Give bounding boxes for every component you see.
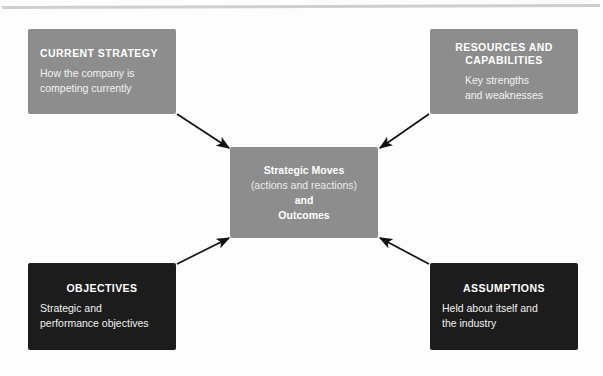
node-current-strategy-title: CURRENT STRATEGY — [40, 47, 158, 60]
strategy-diagram: CURRENT STRATEGY How the company is comp… — [0, 0, 603, 376]
page-top-rule — [2, 4, 600, 9]
center-line-actions-and-reactions: (actions and reactions) — [251, 178, 357, 193]
arrow-assumptions-to-center — [380, 238, 429, 264]
node-objectives-title: OBJECTIVES — [66, 282, 137, 295]
node-resources-title: RESOURCES AND CAPABILITIES — [455, 41, 553, 67]
node-current-strategy-body-line-1: How the company is — [40, 66, 135, 81]
center-line-outcomes: Outcomes — [278, 208, 329, 223]
node-current-strategy[interactable]: CURRENT STRATEGY How the company is comp… — [28, 29, 176, 114]
arrow-current-strategy-to-center — [177, 114, 229, 148]
node-resources-body-line-1: Key strengths — [465, 73, 543, 88]
center-line-and: and — [295, 193, 314, 208]
arrow-resources-to-center — [380, 114, 429, 148]
node-strategic-moves-and-outcomes[interactable]: Strategic Moves (actions and reactions) … — [230, 147, 378, 238]
node-assumptions[interactable]: ASSUMPTIONS Held about itself and the in… — [430, 263, 578, 350]
node-resources-title-line-1: RESOURCES AND — [455, 41, 553, 53]
node-current-strategy-body-line-2: competing currently — [40, 81, 135, 96]
node-assumptions-title: ASSUMPTIONS — [463, 282, 545, 295]
node-assumptions-body-line-2: the industry — [442, 316, 538, 331]
node-resources-body: Key strengths and weaknesses — [465, 73, 543, 103]
node-resources-and-capabilities[interactable]: RESOURCES AND CAPABILITIES Key strengths… — [430, 29, 578, 114]
center-line-strategic-moves: Strategic Moves — [264, 163, 345, 178]
node-objectives-body-line-2: performance objectives — [40, 316, 149, 331]
node-resources-title-line-2: CAPABILITIES — [465, 54, 543, 66]
node-current-strategy-body: How the company is competing currently — [40, 66, 135, 96]
node-assumptions-body-line-1: Held about itself and — [442, 301, 538, 316]
node-resources-body-line-2: and weaknesses — [465, 88, 543, 103]
node-objectives-body: Strategic and performance objectives — [40, 301, 149, 331]
node-assumptions-body: Held about itself and the industry — [442, 301, 538, 331]
node-objectives[interactable]: OBJECTIVES Strategic and performance obj… — [28, 263, 176, 350]
arrow-objectives-to-center — [177, 238, 229, 264]
node-objectives-body-line-1: Strategic and — [40, 301, 149, 316]
